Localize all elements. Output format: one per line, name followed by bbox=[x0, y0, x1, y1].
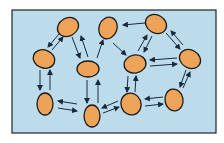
node-n9 bbox=[84, 105, 100, 127]
node-n5 bbox=[77, 61, 99, 77]
node-n8 bbox=[37, 93, 53, 115]
diagram-stage bbox=[0, 0, 224, 143]
diagram-canvas bbox=[0, 0, 224, 143]
